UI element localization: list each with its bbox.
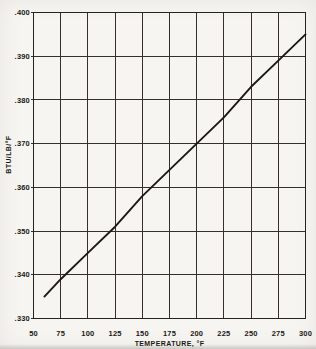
y-axis-title: BTU/LB/°F <box>5 135 12 174</box>
x-tick-label: 275 <box>272 329 285 338</box>
x-axis-title: TEMPERATURE, °F <box>135 340 205 348</box>
y-tick-label: .350 <box>15 227 30 236</box>
data-line <box>44 34 305 296</box>
line-chart: .330.340.350.360.370.380.390.40050751001… <box>0 0 316 349</box>
y-tick-label: .340 <box>15 270 30 279</box>
y-tick-label: .330 <box>15 314 30 323</box>
x-tick-label: 175 <box>163 329 176 338</box>
x-tick-label: 50 <box>29 329 38 338</box>
y-tick-label: .380 <box>15 96 30 105</box>
y-tick-label: .370 <box>15 139 30 148</box>
x-tick-label: 225 <box>217 329 230 338</box>
gridlines <box>31 13 306 319</box>
y-axis-labels: .330.340.350.360.370.380.390.400 <box>15 8 30 323</box>
y-tick-label: .400 <box>15 8 30 17</box>
x-axis-labels: 5075100125150175200225250275300 <box>29 329 312 338</box>
x-tick-label: 200 <box>190 329 203 338</box>
scanned-chart-page: .330.340.350.360.370.380.390.40050751001… <box>0 0 316 349</box>
y-tick-label: .390 <box>15 52 30 61</box>
x-tick-label: 100 <box>81 329 94 338</box>
x-tick-label: 300 <box>299 329 312 338</box>
x-tick-label: 150 <box>136 329 149 338</box>
x-tick-label: 250 <box>245 329 258 338</box>
x-tick-label: 125 <box>109 329 122 338</box>
x-tick-label: 75 <box>56 329 65 338</box>
y-tick-label: .360 <box>15 183 30 192</box>
